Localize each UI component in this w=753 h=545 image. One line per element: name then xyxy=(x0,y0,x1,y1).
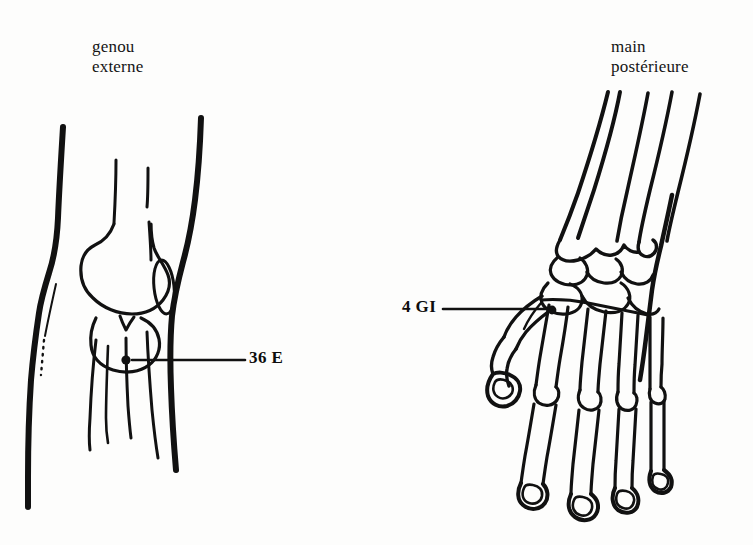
hand-middle-nail xyxy=(573,497,592,516)
knee-skin-contour-posterior xyxy=(28,127,63,507)
hand-carpal-lunate xyxy=(587,259,622,283)
hand-distal-radioulnar-joint xyxy=(556,240,639,261)
hand-figure xyxy=(443,92,700,520)
hand-thumb-proximal-phalanx xyxy=(492,337,505,374)
knee-tibia-shaft-medial xyxy=(89,340,96,450)
hand-ring-nail xyxy=(616,491,634,509)
hand-metacarpal-4-medial xyxy=(618,313,622,392)
hand-index-proximal-phalanx xyxy=(521,404,534,483)
knee-tibia-shaft-lateral xyxy=(126,338,131,438)
hand-index-nail xyxy=(523,485,543,504)
knee-figure-caption: genou externe xyxy=(92,37,143,77)
hand-figure-caption: main postérieure xyxy=(611,37,689,77)
hand-carpal-triquetrum xyxy=(621,272,653,284)
anatomical-plate-page: genou externe main postérieure 36 E 4 GI xyxy=(0,0,753,545)
hand-middle-proximal-phalanx xyxy=(571,410,579,494)
hand-radius-groove xyxy=(667,94,700,241)
hand-ring-proximal-phalanx xyxy=(615,409,619,488)
hand-contour-lateral xyxy=(640,195,672,380)
knee-tibia-crest xyxy=(106,346,108,443)
point-dot-36e xyxy=(121,355,130,364)
hand-metacarpal-3-medial xyxy=(580,309,588,390)
hand-middle-proximal-phalanx-edge xyxy=(591,410,599,494)
hand-ulna-medial xyxy=(578,92,620,238)
hand-little-nail xyxy=(652,474,668,490)
knee-figure xyxy=(28,118,245,507)
hand-metacarpal-4-lateral xyxy=(634,315,638,393)
hand-metacarpal-2-lateral xyxy=(556,307,568,387)
knee-fibula xyxy=(147,332,158,458)
point-label-36e: 36 E xyxy=(249,348,283,368)
anatomy-drawing-canvas xyxy=(0,0,753,545)
hand-thumb-metacarpal xyxy=(504,296,542,337)
knee-dotted-guide-line xyxy=(41,340,44,375)
hand-metacarpal-3-head xyxy=(578,390,601,410)
hand-ring-proximal-phalanx-edge xyxy=(632,409,636,488)
hand-metacarpal-2-head xyxy=(534,385,558,405)
hand-ulnar-styloid xyxy=(638,240,656,257)
hand-index-proximal-phalanx-edge xyxy=(543,405,556,484)
knee-tibial-spine xyxy=(120,316,134,330)
point-label-4gi: 4 GI xyxy=(402,297,436,317)
knee-femur-shaft-lateral xyxy=(147,168,148,207)
hand-metacarpal-5-lateral xyxy=(661,318,663,387)
knee-femur-shaft-medial xyxy=(114,160,116,223)
hand-metacarpal-3-lateral xyxy=(598,311,606,392)
hand-thumb-nail xyxy=(493,380,512,399)
